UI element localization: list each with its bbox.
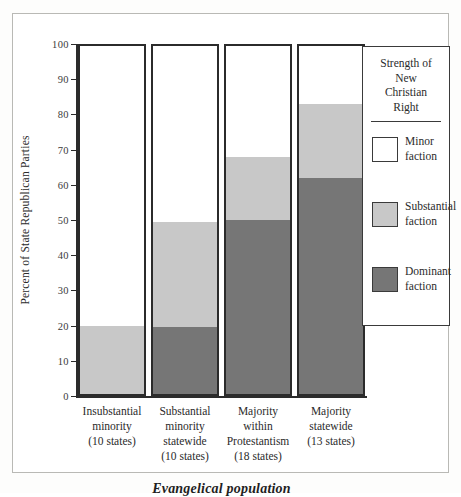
legend-title-line: Christian xyxy=(369,85,443,100)
y-tick-label: 60 xyxy=(58,179,69,190)
bar-segment-substantial xyxy=(226,157,290,220)
legend: Strength ofNewChristianRight Minorfactio… xyxy=(362,46,450,326)
bar-3[interactable] xyxy=(224,44,292,396)
legend-label-line: faction xyxy=(405,149,437,164)
legend-entry-1[interactable]: Minorfaction xyxy=(372,135,449,187)
legend-title-line: Strength of xyxy=(369,56,443,71)
x-axis-line xyxy=(76,396,367,398)
y-tick-mark xyxy=(71,290,77,291)
legend-divider xyxy=(371,121,441,122)
category-label-line: (13 states) xyxy=(283,434,379,449)
y-tick-label: 30 xyxy=(58,285,69,296)
legend-label-line: faction xyxy=(405,214,456,229)
legend-title-line: Right xyxy=(369,100,443,115)
bar-2[interactable] xyxy=(151,44,219,396)
bar-4[interactable] xyxy=(297,44,365,396)
legend-entries: MinorfactionSubstantialfactionDominantfa… xyxy=(363,135,449,317)
legend-entry-2[interactable]: Substantialfaction xyxy=(372,200,449,252)
legend-title: Strength ofNewChristianRight xyxy=(369,56,443,114)
y-tick-mark xyxy=(71,79,77,80)
y-tick-mark xyxy=(71,361,77,362)
bar-segment-dominant xyxy=(153,327,217,396)
bar-segment-dominant xyxy=(299,178,363,396)
bar-1[interactable] xyxy=(78,44,146,396)
y-tick-label: 80 xyxy=(58,109,69,120)
y-tick-label: 0 xyxy=(63,391,69,402)
y-tick-mark xyxy=(71,150,77,151)
y-tick-label: 100 xyxy=(52,39,69,50)
legend-swatch xyxy=(372,137,398,162)
legend-label-line: Dominant xyxy=(405,264,451,279)
y-tick-mark xyxy=(71,220,77,221)
y-tick-label: 20 xyxy=(58,320,69,331)
y-tick-mark xyxy=(71,114,77,115)
y-tick-label: 50 xyxy=(58,215,69,226)
category-label-4: Majoritystatewide(13 states) xyxy=(283,404,379,449)
legend-label: Minorfaction xyxy=(405,134,437,164)
bar-segment-substantial xyxy=(299,104,363,178)
legend-swatch xyxy=(372,202,398,227)
plot-area: 0102030405060708090100 Percent of State … xyxy=(77,44,366,396)
y-tick-label: 10 xyxy=(58,355,69,366)
category-label-line: Majority xyxy=(283,404,379,419)
bar-segment-substantial xyxy=(153,222,217,328)
bar-segment-dominant xyxy=(226,220,290,396)
category-label-line: (18 states) xyxy=(210,449,306,464)
y-tick-label: 90 xyxy=(58,74,69,85)
y-tick-mark xyxy=(71,255,77,256)
x-axis-title: Evangelical population xyxy=(77,481,366,497)
legend-entry-3[interactable]: Dominantfaction xyxy=(372,265,449,317)
legend-label-line: Minor xyxy=(405,134,437,149)
legend-label: Substantialfaction xyxy=(405,199,456,229)
legend-title-line: New xyxy=(369,71,443,86)
figure-frame: 0102030405060708090100 Percent of State … xyxy=(12,13,449,473)
category-label-line: statewide xyxy=(283,419,379,434)
y-tick-label: 70 xyxy=(58,144,69,155)
y-tick-mark xyxy=(71,185,77,186)
y-tick-label: 40 xyxy=(58,250,69,261)
y-tick-mark xyxy=(71,396,77,397)
y-tick-mark xyxy=(71,44,77,45)
legend-label: Dominantfaction xyxy=(405,264,451,294)
legend-swatch xyxy=(372,267,398,292)
bar-segment-substantial xyxy=(80,326,144,396)
y-axis-title: Percent of State Republican Parties xyxy=(19,135,31,304)
legend-label-line: faction xyxy=(405,279,451,294)
legend-label-line: Substantial xyxy=(405,199,456,214)
y-tick-mark xyxy=(71,326,77,327)
